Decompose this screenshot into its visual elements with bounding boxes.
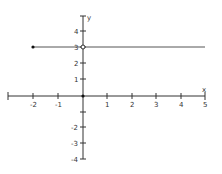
y-tick-label: -3 xyxy=(71,140,78,148)
x-tick-label: -1 xyxy=(55,101,62,109)
y-tick-label: 4 xyxy=(74,28,79,36)
y-tick-label: 2 xyxy=(74,60,78,68)
x-tick-label: 4 xyxy=(179,101,184,109)
x-tick-label: 5 xyxy=(203,101,207,109)
x-tick-label: 3 xyxy=(154,101,158,109)
y-axis-label: y xyxy=(87,14,91,22)
y-tick-label: -4 xyxy=(71,156,79,164)
y-tick-label: 1 xyxy=(74,76,78,84)
origin-dot xyxy=(81,94,84,97)
x-axis: -2 -1 1 2 3 4 5 x xyxy=(8,86,207,109)
graph: -2 -1 1 2 3 4 5 x 4 3 2 1 -2 -3 -4 y xyxy=(0,0,222,174)
y-tick-label: 3 xyxy=(74,44,78,52)
open-circle-marker xyxy=(81,45,85,49)
x-tick-label: -2 xyxy=(30,101,37,109)
x-tick-label: 2 xyxy=(130,101,134,109)
y-axis: 4 3 2 1 -2 -3 -4 y xyxy=(71,14,91,164)
series-line xyxy=(31,45,205,98)
y-tick-label: -2 xyxy=(71,124,78,132)
closed-endpoint-dot xyxy=(31,45,34,48)
x-axis-label: x xyxy=(202,86,206,94)
x-tick-label: 1 xyxy=(105,101,109,109)
